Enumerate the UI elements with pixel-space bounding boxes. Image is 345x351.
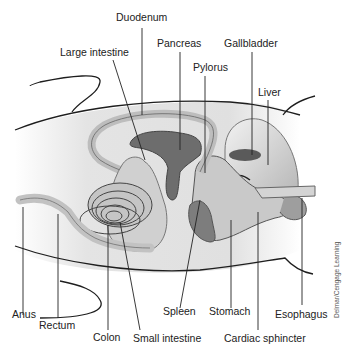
digestive-diagram: Duodenum Large intestine Pancreas Gallbl…: [0, 0, 345, 351]
image-credit: Delmar/Cengage Learning: [333, 242, 340, 318]
label-gallbladder: Gallbladder: [224, 37, 278, 49]
label-cardiac-sphincter: Cardiac sphincter: [224, 332, 306, 344]
label-spleen: Spleen: [163, 305, 196, 317]
label-liver: Liver: [258, 86, 281, 98]
esophagus-organ: [255, 186, 315, 198]
label-large-intestine: Large intestine: [60, 46, 129, 58]
label-pylorus: Pylorus: [193, 61, 228, 73]
label-esophagus: Esophagus: [275, 308, 328, 320]
label-pancreas: Pancreas: [157, 37, 201, 49]
label-small-intestine: Small intestine: [133, 332, 201, 344]
label-colon: Colon: [93, 331, 120, 343]
label-anus: Anus: [12, 308, 36, 320]
label-stomach: Stomach: [209, 305, 250, 317]
label-duodenum: Duodenum: [116, 11, 167, 23]
diagram-artwork: [0, 0, 345, 351]
label-rectum: Rectum: [39, 319, 75, 331]
gallbladder-organ: [229, 149, 261, 161]
